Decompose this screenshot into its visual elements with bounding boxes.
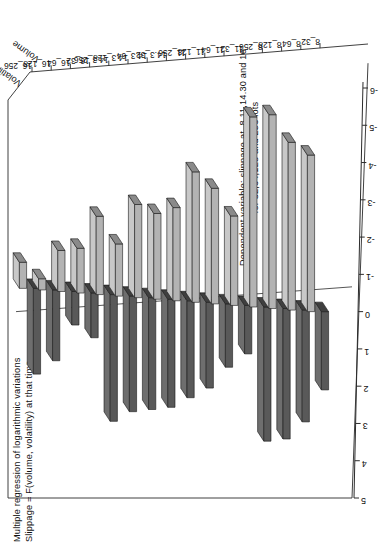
bar-volume-11_32: [224, 206, 237, 305]
bar-volume-8_128: [263, 105, 276, 308]
category-label: 8_32: [301, 37, 320, 47]
y-tick-label: 5: [361, 496, 366, 506]
bar-volume-14.3_128: [109, 234, 122, 296]
bar-volatility-8_128: [277, 299, 290, 439]
bar-volume-14.3_64: [128, 195, 141, 298]
bar-volatility-14.3_64: [142, 288, 155, 409]
bar-volume-11_128: [186, 162, 199, 302]
bar-volume-8_32: [301, 146, 314, 312]
bar-volatility-16_256: [27, 279, 40, 374]
bar-volume-16_64: [52, 241, 65, 292]
bar-volume-11_256: [167, 198, 180, 301]
bar-volatility-11_128: [200, 293, 213, 388]
rotated-figure-canvas: Multiple regression of logarithmic varia…: [0, 0, 390, 558]
bar-volume-14.3_256: [90, 207, 103, 295]
y-tick-label: 1: [364, 347, 369, 357]
bar-volume-8_64: [282, 133, 295, 310]
category-label: 16_256: [4, 61, 32, 71]
bar-volatility-14.3_32: [162, 290, 175, 408]
bar-volatility-11_256: [181, 291, 194, 397]
y-tick-label: -5: [369, 123, 377, 133]
bar-volatility-14.3_128: [123, 287, 136, 412]
bar-volume-11_64: [205, 179, 218, 304]
bar-volatility-14.3_256: [104, 285, 117, 421]
y-tick-label: -3: [368, 198, 376, 208]
bar-volume-8_256: [244, 107, 257, 307]
bar-volatility-16_128: [46, 280, 59, 360]
bar-volume-16_32: [71, 239, 84, 293]
y-tick-label: -4: [368, 161, 376, 171]
chart-svg: 543210-1-2-3-4-5-6T_value8_328_648_1288_…: [0, 0, 390, 558]
category-label: 8_64: [282, 39, 301, 49]
bar-volatility-8_64: [296, 301, 309, 422]
y-tick-label: -2: [367, 235, 375, 245]
bar-volatility-8_256: [258, 297, 271, 441]
y-tick-label: 4: [362, 459, 367, 469]
chart-figure: Multiple regression of logarithmic varia…: [0, 0, 390, 558]
y-tick-label: 3: [363, 421, 368, 431]
y-tick-label: 0: [365, 310, 370, 320]
plot-area: 543210-1-2-3-4-5-6T_value8_328_648_1288_…: [0, 0, 390, 558]
bar-volatility-8_32: [315, 302, 328, 390]
bar-volume-14.3_32: [148, 204, 161, 299]
y-tick-label: 2: [363, 384, 368, 394]
y-tick-label: -1: [366, 272, 374, 282]
y-tick-label: -6: [370, 86, 378, 96]
bar-volume-16_256: [13, 253, 26, 289]
